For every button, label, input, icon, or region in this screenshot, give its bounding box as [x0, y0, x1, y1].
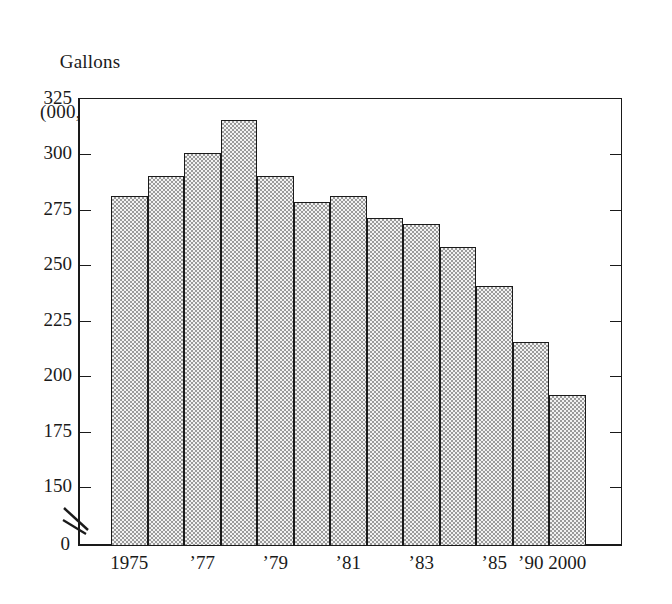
y-axis-tick-label: 175 [2, 421, 72, 440]
x-axis-labels: 1975’77’79’81’83’85’902000 [78, 551, 622, 585]
y-axis-labels: 325300275250225200175150 [0, 98, 72, 546]
y-axis-tick-label: 300 [2, 143, 72, 162]
x-axis-tick-label: 2000 [527, 551, 607, 575]
bars-group [78, 98, 622, 546]
y-axis-zero-label: 0 [42, 534, 70, 553]
bar [440, 247, 477, 546]
bar [221, 120, 258, 546]
bar [403, 224, 440, 546]
x-axis-tick-label: 1975 [89, 551, 169, 575]
bar [513, 342, 550, 546]
bar [111, 196, 148, 546]
x-axis-tick-label: ’83 [381, 551, 461, 575]
x-axis-tick-label: ’81 [308, 551, 388, 575]
bar [549, 395, 586, 546]
y-axis-tick-label: 275 [2, 199, 72, 218]
bar [294, 202, 331, 546]
bar [367, 218, 404, 546]
y-axis-tick-label: 325 [2, 88, 72, 107]
y-axis-tick-label: 250 [2, 254, 72, 273]
x-axis-tick-label: ’77 [162, 551, 242, 575]
bar [148, 176, 185, 546]
bar [476, 286, 513, 546]
y-axis-tick-label: 150 [2, 476, 72, 495]
x-axis-tick-label: ’79 [235, 551, 315, 575]
bar [184, 153, 221, 546]
bar [257, 176, 294, 546]
bar [330, 196, 367, 546]
y-axis-tick-label: 200 [2, 365, 72, 384]
bar-chart: Gallons (000,000) 3253002752502252001751… [0, 0, 672, 604]
y-axis-title-line1: Gallons [60, 51, 121, 72]
y-axis-tick-label: 225 [2, 310, 72, 329]
